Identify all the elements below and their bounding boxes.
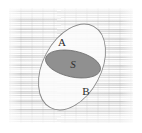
venn-diagram-svg: A S B [0,0,142,133]
region-label-b: B [82,85,89,97]
subset-label-s: S [70,58,76,70]
figure-root: A S B [0,0,142,133]
region-label-a: A [58,36,66,48]
